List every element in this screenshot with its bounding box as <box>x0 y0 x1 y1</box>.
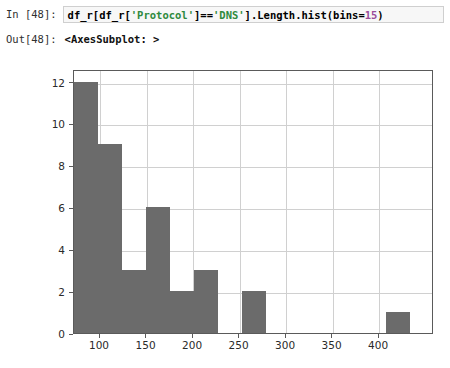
code-source-text: df_r[df_r['Protocol']=='DNS'].Length.his… <box>68 7 439 23</box>
code-token-2: ]== <box>194 9 213 21</box>
y-axis-tick-mark <box>69 82 73 83</box>
notebook-cell-area: In [48]: df_r[df_r['Protocol']=='DNS'].L… <box>0 0 450 56</box>
x-axis-tick-mark <box>331 334 332 338</box>
output-repr-text: <AxesSubplot: > <box>63 31 160 47</box>
gridline-vertical <box>240 71 241 333</box>
input-cell-row: In [48]: df_r[df_r['Protocol']=='DNS'].L… <box>6 6 444 23</box>
y-axis-tick-label: 4 <box>5 244 65 256</box>
histogram-bar <box>194 270 218 333</box>
output-prompt-label: Out[48]: <box>6 31 63 48</box>
plot-area <box>73 70 433 334</box>
y-axis-tick-label: 2 <box>5 286 65 298</box>
histogram-bar <box>122 270 146 333</box>
y-axis-tick-mark <box>69 208 73 209</box>
x-axis-tick-mark <box>285 334 286 338</box>
x-axis-tick-label: 400 <box>348 339 408 351</box>
histogram-bar <box>74 82 98 333</box>
y-axis-tick-label: 8 <box>5 160 65 172</box>
y-axis-tick-label: 10 <box>5 118 65 130</box>
input-prompt-label: In [48]: <box>6 6 63 23</box>
y-axis-tick-label: 12 <box>5 77 65 89</box>
y-axis-tick-mark <box>69 334 73 335</box>
code-token-string-protocol: 'Protocol' <box>131 9 194 21</box>
gridline-vertical <box>333 71 334 333</box>
histogram-bar <box>386 312 410 333</box>
gridline-vertical <box>286 71 287 333</box>
code-token-3: ].Length.hist(bins= <box>245 9 365 21</box>
y-axis-tick-label: 0 <box>5 328 65 340</box>
code-input-box[interactable]: df_r[df_r['Protocol']=='DNS'].Length.his… <box>63 6 444 23</box>
x-axis-tick-mark <box>238 334 239 338</box>
y-axis-tick-label: 6 <box>5 202 65 214</box>
histogram-figure: 024681012100150200250300350400 <box>0 56 450 368</box>
histogram-bar <box>242 291 266 333</box>
code-token-number-bins: 15 <box>365 9 378 21</box>
code-token-string-dns: 'DNS' <box>213 9 245 21</box>
y-axis-tick-mark <box>69 250 73 251</box>
histogram-bar <box>98 144 122 333</box>
histogram-bar <box>146 207 170 333</box>
y-axis-tick-mark <box>69 292 73 293</box>
x-axis-tick-mark <box>378 334 379 338</box>
histogram-bar <box>170 291 194 333</box>
y-axis-tick-mark <box>69 166 73 167</box>
code-token-1: df_r[df_r[ <box>68 9 131 21</box>
gridline-vertical <box>379 71 380 333</box>
y-axis-tick-mark <box>69 124 73 125</box>
code-token-4: ) <box>377 9 383 21</box>
output-cell-row: Out[48]: <AxesSubplot: > <box>6 31 444 48</box>
x-axis-tick-mark <box>99 334 100 338</box>
x-axis-tick-mark <box>192 334 193 338</box>
x-axis-tick-mark <box>145 334 146 338</box>
